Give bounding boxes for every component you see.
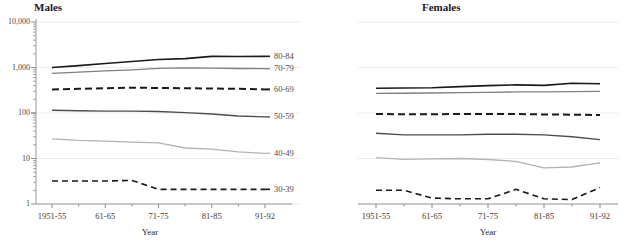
series-line-80-84 bbox=[52, 56, 265, 67]
series-line-60-69 bbox=[376, 114, 600, 115]
plot-area-females bbox=[318, 0, 633, 240]
y-axis-tick-label: 10,000 bbox=[8, 18, 30, 26]
x-axis-tick-label: 61-65 bbox=[408, 212, 456, 221]
plot-area-males bbox=[0, 0, 318, 240]
series-line-70-79 bbox=[376, 91, 600, 93]
x-axis-tick-label: 81-85 bbox=[188, 212, 236, 221]
x-axis-tick-label: 71-75 bbox=[135, 212, 183, 221]
x-axis-tick-label: 91-92 bbox=[576, 212, 624, 221]
chart-panel-females: Females 1951-5561-6571-7581-8591-92 Year bbox=[318, 0, 633, 240]
series-label-60-69: 60-69 bbox=[274, 85, 294, 94]
series-line-80-84 bbox=[376, 83, 600, 88]
y-axis-tick-label: 1 bbox=[26, 200, 30, 208]
series-line-70-79 bbox=[52, 68, 265, 74]
y-axis-tick-labels-males: 10,0001,000100101 bbox=[0, 0, 30, 240]
series-line-30-39 bbox=[376, 188, 600, 200]
series-line-40-49 bbox=[52, 139, 265, 153]
series-label-80-84: 80-84 bbox=[274, 52, 294, 61]
series-line-30-39 bbox=[52, 180, 265, 189]
y-axis-tick-label: 10 bbox=[22, 155, 30, 163]
x-axis-title-females: Year bbox=[458, 228, 518, 237]
x-axis-title-males: Year bbox=[120, 228, 180, 237]
series-line-40-49 bbox=[376, 158, 600, 168]
y-axis-tick-label: 100 bbox=[18, 109, 30, 117]
series-label-70-79: 70-79 bbox=[274, 64, 294, 73]
series-label-50-59: 50-59 bbox=[274, 112, 294, 121]
chart-panel-males: Males 10,0001,000100101 1951-5561-6571-7… bbox=[0, 0, 318, 240]
series-label-40-49: 40-49 bbox=[274, 149, 294, 158]
y-axis-tick-label: 1,000 bbox=[12, 64, 30, 72]
x-axis-tick-label: 71-75 bbox=[464, 212, 512, 221]
series-line-60-69 bbox=[52, 88, 265, 90]
x-axis-tick-label: 81-85 bbox=[520, 212, 568, 221]
x-axis-tick-label: 1951-55 bbox=[28, 212, 76, 221]
x-axis-tick-label: 91-92 bbox=[241, 212, 289, 221]
series-line-50-59 bbox=[52, 110, 265, 117]
figure-container: Males 10,0001,000100101 1951-5561-6571-7… bbox=[0, 0, 633, 240]
series-label-30-39: 30-39 bbox=[274, 185, 294, 194]
series-line-50-59 bbox=[376, 133, 600, 139]
x-axis-tick-label: 61-65 bbox=[81, 212, 129, 221]
x-axis-tick-label: 1951-55 bbox=[352, 212, 400, 221]
